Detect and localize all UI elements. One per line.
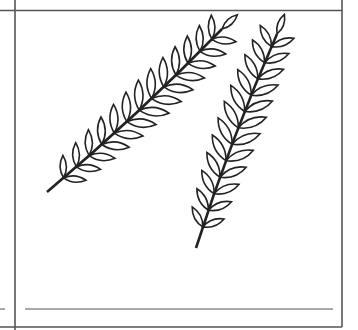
stem-line	[47, 29, 222, 192]
leaflet-icon	[85, 130, 92, 156]
leaflet-icon	[212, 135, 226, 161]
frame-lines	[0, 0, 342, 330]
leaflet-icon	[98, 117, 106, 145]
leaflet-icon	[197, 189, 209, 211]
leaflet-icon	[208, 15, 215, 39]
leaflet-icon	[135, 80, 143, 110]
leaflet-icon	[218, 118, 232, 144]
leaflet-icon	[122, 92, 130, 122]
leaflet-icon	[252, 40, 264, 63]
leaflet-icon	[260, 25, 271, 46]
leaflet-icon	[277, 14, 285, 34]
leaflet-icon	[139, 107, 169, 116]
leaflet-icon	[202, 170, 214, 193]
leaflet-icon	[212, 37, 236, 44]
leaflet-icon	[224, 101, 238, 128]
leaflet-icon	[76, 165, 100, 172]
stem-line	[196, 34, 277, 248]
leaflet-icon	[200, 49, 226, 56]
leaflet-icon	[159, 58, 167, 87]
leaflet-icon	[127, 119, 156, 128]
leaflet-icon	[188, 61, 215, 69]
leaflet-icon	[110, 104, 118, 133]
leaflet-icon	[102, 142, 129, 150]
leaflet-icon	[245, 55, 258, 79]
leaflet-icon	[207, 153, 220, 178]
leaflet-icon	[176, 72, 204, 80]
leaflet-icon	[89, 153, 115, 160]
leaflet-icon	[231, 85, 245, 111]
leaflet-icon	[114, 130, 143, 138]
illustration-canvas	[0, 0, 358, 330]
leaflet-icon	[147, 69, 155, 99]
leaflet-icon	[184, 36, 192, 63]
leaflet-icon	[172, 47, 180, 76]
leaflet-icon	[192, 207, 203, 227]
leaflet-icon	[238, 70, 252, 96]
leaflet-icon	[60, 155, 66, 178]
leaflet-icon	[73, 143, 80, 167]
leaflet-icon	[64, 176, 86, 182]
leaflet-icon	[196, 26, 203, 52]
leaflet-icon	[164, 84, 193, 92]
leaflet-icon	[152, 96, 182, 105]
leaflet-icon	[222, 15, 237, 29]
